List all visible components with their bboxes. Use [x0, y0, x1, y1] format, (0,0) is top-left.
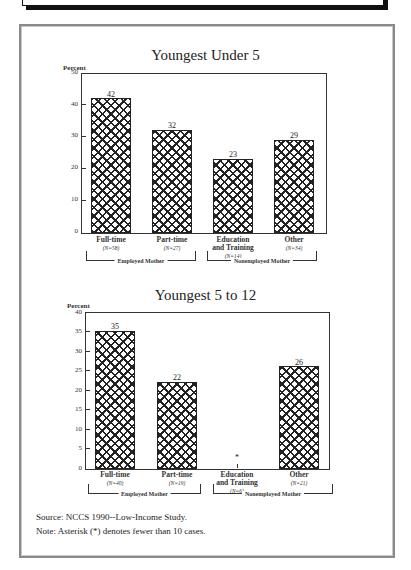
asterisk-marker: * — [217, 453, 257, 462]
bar-part-time — [152, 130, 192, 233]
group-bracket-employed: Employed Mother — [88, 484, 201, 494]
y-tick-label: 25 — [66, 366, 82, 374]
bar-value: 29 — [274, 131, 314, 140]
chart-title: Youngest 5 to 12 — [0, 287, 411, 304]
y-tick-mark — [85, 448, 90, 449]
x-tick-mark — [237, 464, 238, 468]
category-label: Other(N=34) — [264, 236, 324, 252]
bar-value: 35 — [95, 322, 135, 331]
y-tick-mark — [81, 136, 86, 137]
y-tick-label: 30 — [62, 131, 78, 139]
y-tick-mark — [81, 200, 86, 201]
y-tick-label: 30 — [66, 347, 82, 355]
y-tick-mark — [85, 409, 90, 410]
y-tick-mark — [81, 168, 86, 169]
y-tick-mark — [85, 370, 90, 371]
group-bracket-employed: Employed Mother — [86, 251, 196, 261]
y-tick-label: 35 — [66, 327, 82, 335]
bar-other — [274, 140, 314, 233]
y-tick-label: 40 — [62, 100, 78, 108]
bar-part-time — [157, 382, 197, 469]
bar-value: 32 — [152, 121, 192, 130]
asterisk-note: Note: Asterisk (*) denotes fewer than 10… — [36, 526, 205, 536]
y-tick-label: 0 — [62, 227, 78, 235]
y-tick-label: 10 — [62, 195, 78, 203]
bar-value: 23 — [213, 150, 253, 159]
chart-title: Youngest Under 5 — [0, 47, 411, 64]
bar-value: 22 — [157, 373, 197, 382]
y-tick-mark — [85, 429, 90, 430]
bar-other — [279, 366, 319, 469]
category-label: Full-time(N=58) — [81, 236, 141, 252]
bar-education-training — [213, 159, 253, 233]
category-label: Part-time(N=27) — [142, 236, 202, 252]
source-note: Source: NCCS 1990--Low-Income Study. — [36, 512, 187, 522]
y-tick-label: 50 — [62, 68, 78, 76]
y-tick-label: 10 — [66, 425, 82, 433]
y-tick-mark — [81, 104, 86, 105]
y-tick-mark — [85, 331, 90, 332]
y-tick-label: 15 — [66, 405, 82, 413]
bar-full-time — [95, 331, 135, 469]
y-tick-label: 0 — [66, 464, 82, 472]
top-banner — [22, 0, 384, 6]
y-tick-mark — [85, 351, 90, 352]
group-bracket-nonemployed: Nonemployed Mother — [213, 484, 333, 494]
y-tick-mark — [85, 390, 90, 391]
y-tick-label: 5 — [66, 444, 82, 452]
y-tick-label: 20 — [66, 386, 82, 394]
y-tick-label: 20 — [62, 163, 78, 171]
bar-full-time — [91, 98, 131, 233]
y-tick-label: 40 — [66, 308, 82, 316]
group-bracket-nonemployed: Nonemployed Mother — [207, 251, 317, 261]
